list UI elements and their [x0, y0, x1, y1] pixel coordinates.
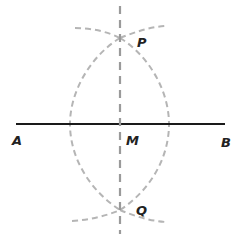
label-q: Q	[136, 203, 147, 218]
label-a: A	[11, 133, 22, 148]
label-b: B	[221, 135, 231, 150]
bottom-left-arc	[72, 210, 120, 221]
label-m: M	[126, 133, 139, 148]
perpendicular-bisector-diagram: A M B P Q	[0, 0, 241, 243]
top-left-arc	[75, 28, 120, 38]
label-p: P	[137, 35, 147, 50]
